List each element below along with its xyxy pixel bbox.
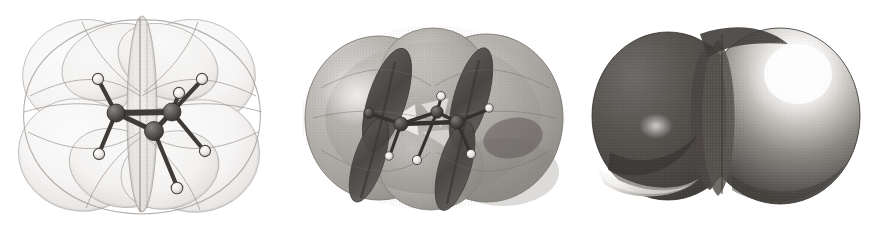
hydrogen-atom [364, 108, 374, 118]
hydrogen-atom [173, 87, 184, 98]
carbon-atom [163, 103, 181, 121]
hydrogen-atom [196, 73, 207, 84]
hydrogen-atom [92, 73, 103, 84]
hydrogen-atom [385, 152, 393, 160]
carbon-atom [107, 104, 125, 122]
carbon-atom [431, 106, 443, 118]
hydrogen-atom [199, 145, 210, 156]
carbon-atom [145, 122, 164, 141]
hydrogen-atom [412, 155, 421, 164]
hydrogen-atom [171, 182, 183, 194]
carbon-atom [394, 117, 408, 131]
hydrogen-atom [437, 92, 446, 101]
high-isosurface-surface [592, 27, 860, 204]
hydrogen-atom [485, 104, 493, 112]
molecular-surface-figure: a [0, 0, 873, 231]
high-isosurface-panel: c [582, 0, 873, 231]
medium-isosurface-panel: b [291, 0, 582, 231]
hydrogen-atom [466, 149, 475, 158]
hydrogen-atom [93, 148, 104, 159]
carbon-atom [450, 115, 464, 129]
low-isosurface-panel: a [0, 0, 291, 231]
